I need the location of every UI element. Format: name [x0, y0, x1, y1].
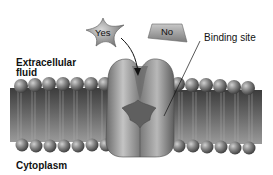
membrane-diagram [0, 0, 273, 175]
extracellular-label-line2: fluid [16, 67, 37, 78]
binding-site-label: Binding site [204, 32, 256, 43]
membrane-right [170, 77, 262, 155]
receptor-protein [106, 59, 174, 157]
yes-ligand-label: Yes [95, 27, 111, 38]
cytoplasm-label: Cytoplasm [16, 160, 67, 171]
no-ligand-label: No [161, 26, 173, 37]
membrane-left [10, 77, 113, 153]
